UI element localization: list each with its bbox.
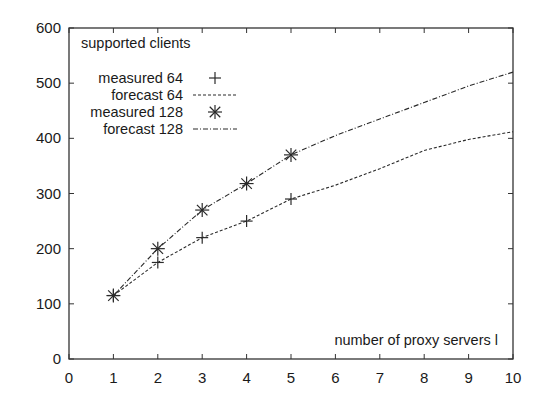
x-tick-label: 1 [109, 369, 117, 386]
x-tick-label: 6 [331, 369, 339, 386]
series-forecast-64 [113, 132, 513, 296]
x-tick-label: 10 [505, 369, 522, 386]
y-tick-label: 200 [36, 240, 61, 257]
x-tick-label: 8 [420, 369, 428, 386]
x-tick-label: 7 [376, 369, 384, 386]
y-tick-label: 600 [36, 19, 61, 36]
legend-label: forecast 64 [111, 87, 183, 103]
chart-title: supported clients [81, 35, 191, 51]
legend-label: measured 64 [98, 70, 183, 86]
x-tick-label: 0 [65, 369, 73, 386]
x-tick-label: 4 [242, 369, 250, 386]
x-tick-label: 5 [287, 369, 295, 386]
y-tick-label: 500 [36, 74, 61, 91]
x-tick-label: 3 [198, 369, 206, 386]
y-tick-label: 300 [36, 185, 61, 202]
line-chart: 0123456789100100200300400500600 supporte… [0, 0, 546, 405]
y-tick-label: 0 [53, 350, 61, 367]
x-tick-label: 2 [154, 369, 162, 386]
x-tick-label: 9 [464, 369, 472, 386]
legend-label: measured 128 [90, 104, 183, 120]
x-axis-label: number of proxy servers l [334, 332, 498, 348]
legend-label: forecast 128 [103, 121, 183, 137]
chart-legend: measured 64forecast 64measured 128foreca… [90, 70, 237, 137]
y-tick-label: 400 [36, 129, 61, 146]
y-tick-label: 100 [36, 295, 61, 312]
